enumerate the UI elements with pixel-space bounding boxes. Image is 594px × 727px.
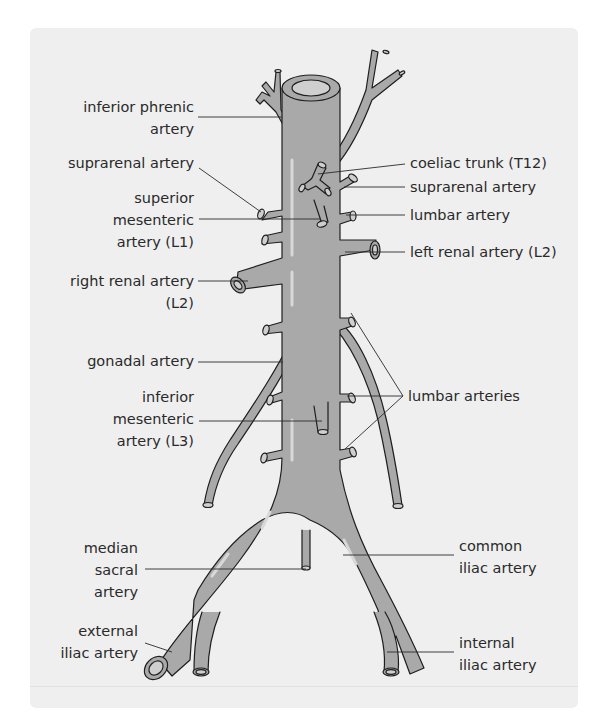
- label-inferior-phrenic-artery: inferior phrenic artery: [83, 96, 194, 140]
- label-left-renal-artery: left renal artery (L2): [410, 241, 557, 263]
- label-gonadal-artery: gonadal artery: [87, 350, 194, 372]
- median-sacral-artery: [302, 530, 310, 568]
- label-inferior-mesenteric-artery: inferior mesenteric artery (L3): [113, 386, 194, 452]
- label-median-sacral-artery: median sacral artery: [84, 537, 138, 603]
- label-internal-iliac-artery: internal iliac artery: [459, 632, 537, 676]
- label-superior-mesenteric-artery: superior mesenteric artery (L1): [113, 187, 194, 253]
- label-common-iliac-artery: common iliac artery: [459, 535, 537, 579]
- upper-right-branch: [330, 50, 402, 166]
- label-suprarenal-artery-right: suprarenal artery: [410, 176, 536, 198]
- label-lumbar-arteries: lumbar arteries: [408, 385, 520, 407]
- label-suprarenal-artery-left: suprarenal artery: [68, 152, 194, 174]
- label-external-iliac-artery: external iliac artery: [60, 620, 138, 664]
- label-coeliac-trunk: coeliac trunk (T12): [410, 152, 547, 174]
- label-right-renal-artery: right renal artery (L2): [70, 270, 194, 314]
- label-lumbar-artery: lumbar artery: [410, 204, 510, 226]
- internal-iliac-left: [194, 612, 220, 672]
